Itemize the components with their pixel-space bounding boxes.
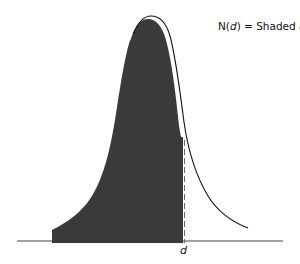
annotation-suffix: ) = Shaded area bbox=[237, 20, 300, 32]
d-axis-label: d bbox=[180, 244, 187, 257]
annotation-variable: d bbox=[230, 20, 237, 32]
annotation-prefix: N( bbox=[218, 20, 230, 32]
distribution-figure bbox=[0, 0, 300, 264]
shaded-area bbox=[52, 19, 183, 243]
shaded-area-annotation: N(d) = Shaded area bbox=[218, 20, 300, 32]
